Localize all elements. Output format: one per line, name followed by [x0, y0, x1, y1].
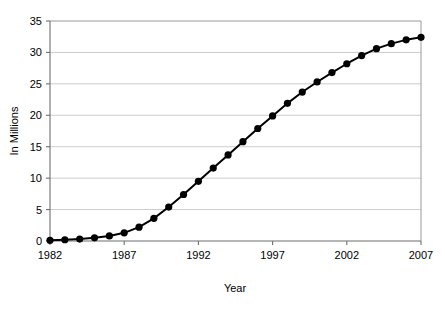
series-markers [46, 34, 424, 244]
data-point [46, 237, 53, 244]
x-axis-ticks: 198219871992199720022007 [38, 241, 433, 261]
data-point [343, 60, 350, 67]
y-tick-label: 10 [30, 172, 42, 184]
x-tick-label: 2002 [335, 249, 359, 261]
data-point [358, 52, 365, 59]
data-point [121, 229, 128, 236]
data-point [254, 125, 261, 132]
gridlines [50, 52, 421, 209]
data-point [284, 100, 291, 107]
y-tick-label: 0 [36, 235, 42, 247]
data-point [150, 215, 157, 222]
y-tick-label: 35 [30, 15, 42, 27]
y-tick-label: 15 [30, 141, 42, 153]
data-point [373, 45, 380, 52]
data-point [314, 78, 321, 85]
data-point [61, 236, 68, 243]
x-tick-label: 1997 [260, 249, 284, 261]
data-series [46, 34, 424, 244]
data-point [135, 224, 142, 231]
data-point [239, 138, 246, 145]
data-point [328, 69, 335, 76]
data-point [388, 40, 395, 47]
line-chart: 05101520253035 198219871992199720022007 … [0, 0, 445, 312]
x-tick-label: 1987 [112, 249, 136, 261]
y-tick-label: 20 [30, 109, 42, 121]
data-point [76, 236, 83, 243]
y-tick-label: 25 [30, 78, 42, 90]
x-tick-label: 1992 [186, 249, 210, 261]
data-point [106, 232, 113, 239]
chart-container: 05101520253035 198219871992199720022007 … [0, 0, 445, 312]
data-point [417, 34, 424, 41]
data-point [269, 112, 276, 119]
x-axis-title: Year [224, 282, 247, 294]
y-axis-title: In Millions [8, 106, 20, 155]
data-point [165, 203, 172, 210]
data-point [195, 178, 202, 185]
y-tick-label: 30 [30, 46, 42, 58]
data-point [299, 88, 306, 95]
data-point [210, 164, 217, 171]
data-point [180, 191, 187, 198]
x-tick-label: 2007 [409, 249, 433, 261]
y-tick-label: 5 [36, 204, 42, 216]
data-point [91, 234, 98, 241]
data-point [224, 151, 231, 158]
data-point [403, 36, 410, 43]
x-tick-label: 1982 [38, 249, 62, 261]
y-axis-ticks: 05101520253035 [30, 15, 50, 247]
